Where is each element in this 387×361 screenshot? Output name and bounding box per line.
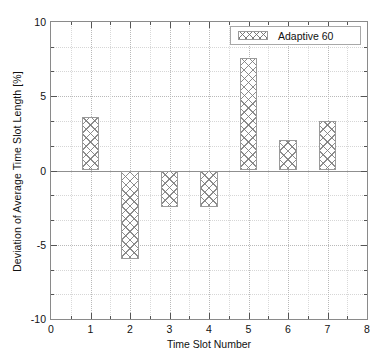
y-tick-major-right [361,245,367,246]
y-tick-label: 0 [6,165,50,177]
y-tick-major-right [361,96,367,97]
bar-time-slot-5 [240,58,258,171]
y-tick-label: 5 [6,90,50,102]
x-tick-major-top [91,22,92,28]
x-tick-major-top [209,22,210,28]
chart-legend: Adaptive 60 [230,26,361,45]
x-tick-minor-top [347,22,348,25]
legend-swatch-icon [238,31,268,40]
y-tick-minor-right [364,294,367,295]
bar-time-slot-1 [82,117,100,170]
y-tick-minor-right [364,71,367,72]
y-tick-major-right [361,171,367,172]
x-tick-minor-top [268,22,269,25]
x-tick-label: 1 [76,323,106,335]
x-tick-major [91,313,92,319]
y-tick-minor [51,71,54,72]
y-tick-major [51,245,57,246]
x-tick-minor-top [150,22,151,25]
x-tick-major [170,313,171,319]
x-tick-major [249,313,250,319]
bar-time-slot-2 [121,171,139,259]
x-tick-minor-top [189,22,190,25]
y-tick-label: 10 [6,16,50,28]
y-tick-minor [51,270,54,271]
legend-label: Adaptive 60 [278,30,333,42]
bar-time-slot-4 [200,171,218,207]
y-tick-minor-right [364,220,367,221]
chart-figure: Deviation of Average Time Slot Length [%… [0,0,387,361]
y-tick-minor [51,121,54,122]
y-tick-minor-right [364,195,367,196]
y-tick-minor [51,220,54,221]
x-tick-minor-top [229,22,230,25]
y-tick-major [51,96,57,97]
x-tick-label: 2 [115,323,145,335]
y-axis-tick-labels: -10-50510 [0,21,50,320]
x-tick-major-top [130,22,131,28]
x-tick-minor [229,316,230,319]
x-tick-minor-top [110,22,111,25]
x-tick-label: 6 [273,323,303,335]
plot-area [50,21,368,320]
x-tick-label: 3 [155,323,185,335]
x-axis-title: Time Slot Number [50,338,368,350]
y-tick-minor [51,294,54,295]
x-tick-minor [150,316,151,319]
x-tick-minor [347,316,348,319]
y-tick-minor-right [364,47,367,48]
y-tick-label: -5 [6,239,50,251]
y-tick-minor [51,47,54,48]
bar-time-slot-6 [279,140,297,170]
x-tick-major [328,313,329,319]
y-tick-minor [51,195,54,196]
y-tick-minor-right [364,270,367,271]
x-tick-minor [308,316,309,319]
x-tick-major [288,313,289,319]
x-tick-label: 4 [194,323,224,335]
x-tick-label: 7 [313,323,343,335]
bar-time-slot-7 [319,121,337,170]
x-tick-minor [268,316,269,319]
x-tick-minor [71,316,72,319]
x-tick-minor [110,316,111,319]
y-tick-minor-right [364,121,367,122]
y-tick-minor-right [364,146,367,147]
x-tick-label: 5 [234,323,264,335]
x-tick-minor-top [308,22,309,25]
x-tick-minor-top [71,22,72,25]
x-tick-label: 8 [352,323,382,335]
x-tick-label: 0 [36,323,66,335]
x-tick-major [130,313,131,319]
bar-time-slot-3 [161,171,179,207]
x-tick-major-top [170,22,171,28]
y-tick-major [51,171,57,172]
x-tick-major [209,313,210,319]
y-tick-minor [51,146,54,147]
x-tick-minor [189,316,190,319]
x-axis-tick-labels: 012345678 [50,323,368,339]
